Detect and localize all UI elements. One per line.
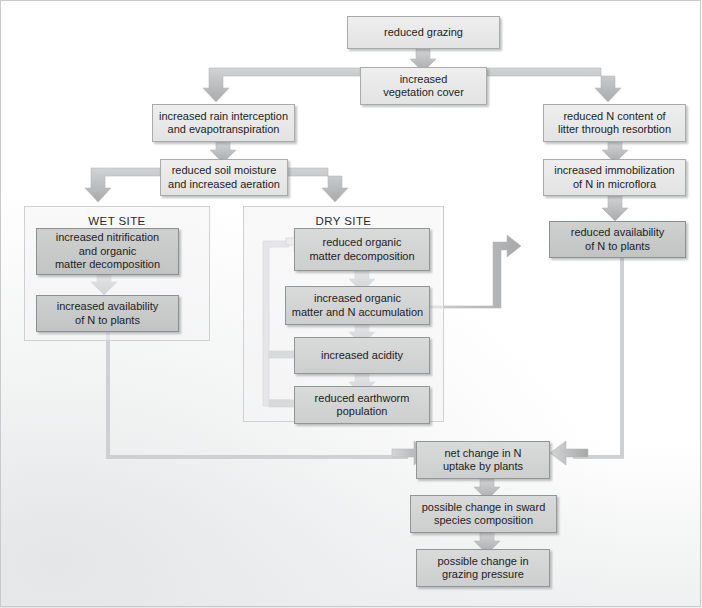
node-increased-immobilization[interactable]: increased immobilizationof N in microflo… bbox=[543, 159, 686, 196]
node-increased-rain-interception[interactable]: increased rain interceptionand evapotran… bbox=[152, 104, 295, 142]
node-reduced-grazing[interactable]: reduced grazing bbox=[347, 16, 500, 49]
node-reduced-grazing-label: reduced grazing bbox=[384, 26, 463, 40]
node-reduced-n-content-litter[interactable]: reduced N content oflitter through resor… bbox=[543, 104, 686, 142]
node-reduced-earthworm-population[interactable]: reduced earthwormpopulation bbox=[294, 386, 430, 424]
node-increased-organic-matter-accumulation-label: increased organicmatter and N accumulati… bbox=[292, 292, 423, 319]
node-reduced-n-content-litter-label: reduced N content oflitter through resor… bbox=[558, 110, 671, 137]
node-increased-rain-interception-label: increased rain interceptionand evapotran… bbox=[159, 110, 288, 137]
node-reduced-availability-n[interactable]: reduced availabilityof N to plants bbox=[549, 221, 686, 258]
node-reduced-organic-matter-decomposition[interactable]: reduced organicmatter decomposition bbox=[294, 228, 430, 271]
node-increased-nitrification-label: increased nitrificationand organicmatter… bbox=[55, 231, 160, 272]
node-increased-nitrification[interactable]: increased nitrificationand organicmatter… bbox=[36, 228, 179, 275]
panel-wet-site-title: WET SITE bbox=[25, 215, 209, 227]
diagram-canvas: WET SITE DRY SITE reduced grazing increa… bbox=[0, 0, 702, 608]
node-possible-change-sward-label: possible change in swardspecies composit… bbox=[422, 501, 546, 528]
edge-vegcover-to-littern bbox=[487, 68, 621, 102]
node-possible-change-sward[interactable]: possible change in swardspecies composit… bbox=[410, 495, 557, 533]
node-reduced-earthworm-population-label: reduced earthwormpopulation bbox=[315, 392, 410, 419]
node-increased-vegetation-cover[interactable]: increasedvegetation cover bbox=[360, 67, 487, 105]
node-net-change-n-uptake[interactable]: net change in Nuptake by plants bbox=[416, 441, 550, 479]
node-increased-organic-matter-accumulation[interactable]: increased organicmatter and N accumulati… bbox=[285, 286, 430, 325]
edge-immobilization-to-reducedavail bbox=[602, 196, 628, 221]
node-increased-availability-n-label: increased availabilityof N to plants bbox=[57, 300, 159, 327]
node-increased-immobilization-label: increased immobilizationof N in microflo… bbox=[554, 164, 674, 191]
node-reduced-organic-matter-decomposition-label: reduced organicmatter decomposition bbox=[309, 236, 414, 263]
arrow-reducedavail-into-netchange bbox=[550, 441, 588, 465]
edge-vegcover-to-rain bbox=[203, 68, 360, 102]
node-possible-change-grazing-pressure[interactable]: possible change ingrazing pressure bbox=[416, 549, 550, 587]
edge-reducedavail-to-netchange bbox=[573, 253, 622, 457]
node-reduced-soil-moisture[interactable]: reduced soil moistureand increased aerat… bbox=[160, 159, 288, 196]
node-reduced-availability-n-label: reduced availabilityof N to plants bbox=[571, 226, 665, 253]
node-increased-acidity-label: increased acidity bbox=[321, 349, 403, 363]
node-reduced-soil-moisture-label: reduced soil moistureand increased aerat… bbox=[168, 164, 280, 191]
node-increased-availability-n[interactable]: increased availabilityof N to plants bbox=[36, 295, 179, 332]
panel-dry-site-title: DRY SITE bbox=[244, 215, 443, 227]
node-increased-acidity[interactable]: increased acidity bbox=[294, 337, 430, 374]
node-possible-change-grazing-pressure-label: possible change ingrazing pressure bbox=[437, 555, 528, 582]
node-net-change-n-uptake-label: net change in Nuptake by plants bbox=[443, 447, 523, 474]
edge-soilmoisture-to-wetsite bbox=[85, 168, 160, 202]
node-increased-vegetation-cover-label: increasedvegetation cover bbox=[383, 73, 464, 100]
